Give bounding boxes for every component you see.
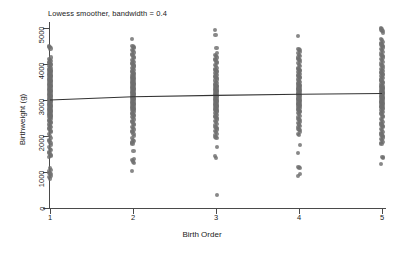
x-axis-title: Birth Order (0, 230, 404, 239)
lowess-smoother-line (0, 0, 404, 253)
y-axis-title: Birthweight (g) (18, 55, 27, 185)
lowess-scatter-chart: Lowess smoother, bandwidth = 0.4 0100020… (0, 0, 404, 253)
